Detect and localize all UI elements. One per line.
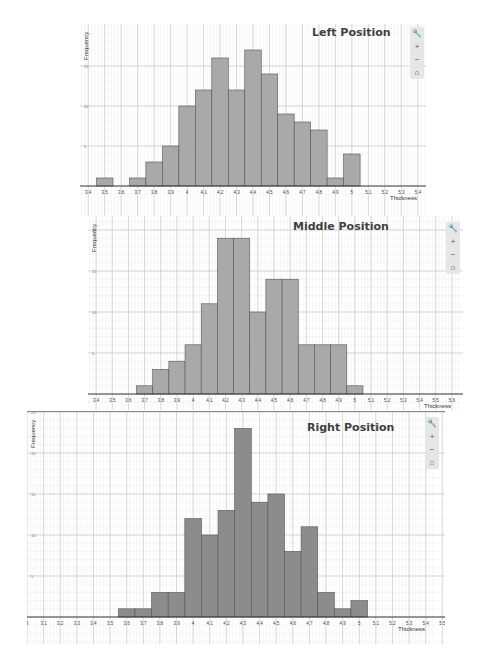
svg-text:4.4: 4.4 bbox=[255, 398, 262, 403]
home-icon[interactable]: ⌂ bbox=[410, 66, 424, 79]
home-icon[interactable]: ⌂ bbox=[446, 261, 460, 274]
histogram-bar bbox=[347, 386, 363, 394]
svg-text:5.4: 5.4 bbox=[416, 398, 423, 403]
zoom-in-button[interactable]: + bbox=[446, 235, 460, 248]
svg-text:4.1: 4.1 bbox=[207, 621, 214, 626]
wrench-icon[interactable]: 🔧 bbox=[410, 27, 424, 40]
svg-text:4.7: 4.7 bbox=[299, 190, 306, 195]
svg-text:4.7: 4.7 bbox=[303, 398, 310, 403]
svg-text:10: 10 bbox=[84, 104, 89, 109]
svg-text:10: 10 bbox=[92, 310, 97, 315]
svg-text:4.4: 4.4 bbox=[250, 190, 257, 195]
histogram-bar bbox=[169, 361, 185, 394]
svg-text:3.7: 3.7 bbox=[140, 621, 147, 626]
histogram-bar bbox=[212, 58, 228, 186]
histogram-bar bbox=[311, 130, 327, 186]
histogram-bar bbox=[201, 304, 217, 394]
histogram-bar bbox=[318, 592, 335, 617]
histogram-bar bbox=[228, 90, 244, 186]
svg-text:4.3: 4.3 bbox=[233, 190, 240, 195]
svg-text:15: 15 bbox=[31, 492, 36, 497]
svg-text:5.1: 5.1 bbox=[368, 398, 375, 403]
svg-text:4.8: 4.8 bbox=[323, 621, 330, 626]
histogram-bar bbox=[201, 535, 218, 617]
svg-text:4.6: 4.6 bbox=[283, 190, 290, 195]
wrench-icon[interactable]: 🔧 bbox=[425, 417, 439, 430]
y-axis-label: Frequency bbox=[30, 420, 36, 448]
svg-text:3.5: 3.5 bbox=[109, 398, 116, 403]
svg-text:3.7: 3.7 bbox=[135, 190, 142, 195]
graph-toolbar: 🔧 + − ⌂ bbox=[425, 417, 439, 469]
chart-panel-left: 510153.43.53.63.73.83.944.14.24.34.44.54… bbox=[80, 24, 426, 216]
svg-text:5.2: 5.2 bbox=[382, 190, 389, 195]
histogram-bar bbox=[185, 519, 202, 617]
svg-text:5.2: 5.2 bbox=[389, 621, 396, 626]
zoom-in-button[interactable]: + bbox=[410, 40, 424, 53]
svg-text:4.9: 4.9 bbox=[339, 621, 346, 626]
histogram-bar bbox=[250, 312, 266, 394]
histogram-bar bbox=[334, 609, 351, 617]
zoom-in-button[interactable]: + bbox=[425, 430, 439, 443]
histogram-bar bbox=[168, 592, 185, 617]
histogram-bar bbox=[118, 609, 135, 617]
svg-text:3.8: 3.8 bbox=[151, 190, 158, 195]
svg-text:3.4: 3.4 bbox=[90, 621, 97, 626]
graph-toolbar: 🔧 + − ⌂ bbox=[410, 27, 424, 79]
histogram-bar bbox=[245, 50, 261, 186]
svg-text:4.4: 4.4 bbox=[256, 621, 263, 626]
histogram-right: 51015202533.13.23.33.43.53.63.73.83.944.… bbox=[27, 412, 445, 644]
histogram-bar bbox=[268, 494, 285, 617]
svg-text:3.8: 3.8 bbox=[158, 398, 165, 403]
histogram-bar bbox=[266, 279, 282, 394]
svg-text:3.9: 3.9 bbox=[167, 190, 174, 195]
wrench-icon[interactable]: 🔧 bbox=[446, 222, 460, 235]
svg-text:4.3: 4.3 bbox=[240, 621, 247, 626]
home-icon[interactable]: ⌂ bbox=[425, 456, 439, 469]
svg-text:4.2: 4.2 bbox=[223, 621, 230, 626]
svg-text:3.4: 3.4 bbox=[85, 190, 92, 195]
histogram-bar bbox=[284, 551, 301, 617]
svg-text:4.3: 4.3 bbox=[239, 398, 246, 403]
svg-text:3.5: 3.5 bbox=[102, 190, 109, 195]
histogram-bar bbox=[135, 609, 152, 617]
y-axis-label: Frequency bbox=[91, 224, 97, 252]
histogram-bar bbox=[282, 279, 298, 394]
svg-text:3.2: 3.2 bbox=[57, 621, 64, 626]
zoom-out-button[interactable]: − bbox=[446, 248, 460, 261]
svg-text:4.5: 4.5 bbox=[271, 398, 278, 403]
svg-text:4.6: 4.6 bbox=[290, 621, 297, 626]
histogram-bar bbox=[351, 601, 368, 617]
svg-text:25: 25 bbox=[31, 412, 36, 415]
histogram-bar bbox=[218, 510, 235, 617]
histogram-bar bbox=[298, 345, 314, 394]
histogram-bar bbox=[331, 345, 347, 394]
x-axis-label: Thickness bbox=[398, 626, 425, 632]
chart-title: Middle Position bbox=[293, 220, 389, 233]
zoom-out-button[interactable]: − bbox=[425, 443, 439, 456]
svg-text:3.4: 3.4 bbox=[93, 398, 100, 403]
svg-text:4.5: 4.5 bbox=[273, 621, 280, 626]
y-axis-label: Frequency bbox=[83, 32, 89, 60]
chart-panel-middle: 51015203.43.53.63.73.83.944.14.24.34.44.… bbox=[88, 216, 463, 410]
histogram-bar bbox=[153, 369, 169, 394]
svg-text:3.7: 3.7 bbox=[141, 398, 148, 403]
svg-text:3.5: 3.5 bbox=[107, 621, 114, 626]
histogram-bar bbox=[234, 238, 250, 394]
svg-text:3.6: 3.6 bbox=[118, 190, 125, 195]
svg-text:5.3: 5.3 bbox=[400, 398, 407, 403]
svg-text:3.9: 3.9 bbox=[173, 621, 180, 626]
histogram-bar bbox=[327, 178, 343, 186]
svg-text:4.8: 4.8 bbox=[316, 190, 323, 195]
svg-text:3.3: 3.3 bbox=[74, 621, 81, 626]
svg-text:4.6: 4.6 bbox=[287, 398, 294, 403]
histogram-bar bbox=[195, 90, 211, 186]
svg-text:5.1: 5.1 bbox=[373, 621, 380, 626]
graph-toolbar: 🔧 + − ⌂ bbox=[446, 222, 460, 274]
svg-text:3.6: 3.6 bbox=[124, 621, 131, 626]
histogram-bar bbox=[314, 345, 330, 394]
zoom-out-button[interactable]: − bbox=[410, 53, 424, 66]
chart-title: Left Position bbox=[312, 26, 391, 39]
chart-title: Right Position bbox=[307, 421, 394, 434]
x-axis-label: Thickness bbox=[424, 403, 451, 409]
svg-text:4.9: 4.9 bbox=[336, 398, 343, 403]
